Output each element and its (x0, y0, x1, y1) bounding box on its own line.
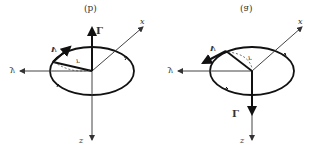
label-r: r (248, 54, 252, 62)
label-L: L (96, 25, 103, 36)
x-axis (252, 27, 302, 71)
label-r: r (76, 57, 80, 65)
label-x: x (298, 17, 303, 26)
label-z: z (239, 136, 245, 145)
label-y: y (167, 67, 173, 76)
panel-caption-a: (a) (240, 4, 252, 14)
panel-caption-b: (b) (84, 4, 97, 14)
label-z: z (78, 136, 84, 145)
panel-a: (a) L v r y x z (167, 4, 303, 145)
orbit-direction-arrow (225, 87, 228, 89)
orbit-direction-arrow (124, 57, 127, 60)
label-v: v (210, 44, 216, 54)
label-x: x (140, 17, 145, 26)
label-L: L (232, 108, 239, 119)
label-v: v (51, 45, 57, 55)
radius-vector (53, 62, 92, 71)
label-y: y (9, 67, 15, 76)
panel-b: (b) L v r y x z (9, 4, 145, 145)
diagram-canvas: (b) L v r y x z (a) L v r y x z (0, 0, 312, 153)
